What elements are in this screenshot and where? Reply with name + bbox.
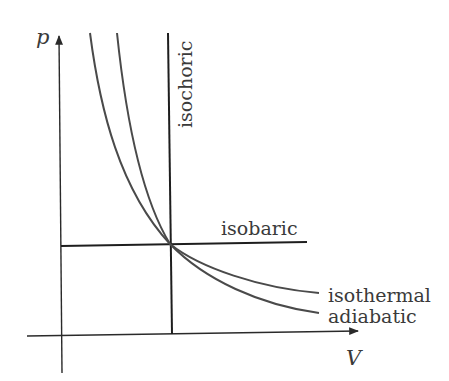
- isochoric-label: isochoric: [174, 41, 196, 128]
- isochoric-line: [168, 33, 172, 334]
- y-axis: [59, 36, 62, 373]
- isobaric-line: [61, 242, 307, 246]
- pv-diagram: p V isochoric isobaric isothermal adiaba…: [0, 0, 449, 381]
- isothermal-curve: [117, 33, 319, 293]
- adiabatic-curve: [90, 33, 319, 313]
- y-axis-label: p: [36, 25, 49, 49]
- isobaric-label: isobaric: [221, 217, 298, 239]
- x-axis-label: V: [346, 346, 363, 370]
- adiabatic-label: adiabatic: [328, 305, 417, 327]
- isothermal-label: isothermal: [328, 284, 431, 306]
- x-axis: [27, 331, 358, 336]
